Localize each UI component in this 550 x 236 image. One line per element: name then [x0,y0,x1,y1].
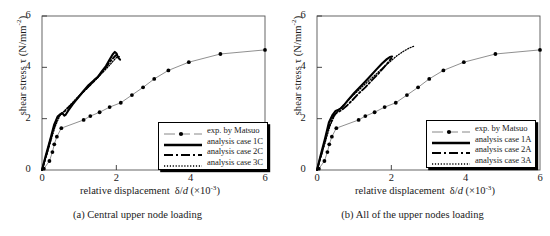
figure-container: shear stress τ (N/mm-2) relative displac… [0,0,550,236]
chart-panel-b: shear stress τ (N/mm-2) relative displac… [275,0,550,236]
x-tick-label: 2 [383,172,399,183]
legend-key-dotted [162,157,204,167]
x-tick-label: 6 [532,172,548,183]
x-tick-label: 0 [34,172,50,183]
y-tick-label: 2 [20,112,36,123]
chart-panel-a: shear stress τ (N/mm-2) relative displac… [0,0,275,236]
legend-row: analysis case 1A [430,134,531,145]
legend-row: exp. by Matsuo [430,123,531,134]
legend-row: analysis case 2C [162,146,263,157]
legend-label: analysis case 2C [204,146,263,156]
y-tick-label: 2 [295,112,311,123]
x-axis-label-b: relative displacement δ/d (×10-3) [305,185,545,196]
legend-a: exp. by Matsuoanalysis case 1Canalysis c… [158,122,268,170]
x-tick-label: 4 [183,172,199,183]
legend-row: analysis case 1C [162,136,263,147]
x-tick-label: 6 [257,172,273,183]
legend-label: analysis case 1A [472,134,531,144]
legend-key-line-marker [430,123,472,133]
legend-key-solid-thick [430,134,472,144]
x-tick-label: 0 [309,172,325,183]
y-tick-label: 4 [20,60,36,71]
legend-key-solid-thick [162,136,204,146]
legend-label: analysis case 3A [472,155,531,165]
panel-caption-a: (a) Central upper node loading [0,209,275,220]
legend-label: exp. by Matsuo [472,123,528,133]
y-tick-label: 6 [20,9,36,20]
panel-caption-b: (b) All of the upper nodes loading [275,209,550,220]
legend-key-line-marker [162,125,204,135]
legend-row: exp. by Matsuo [162,125,263,136]
legend-key-dashdot [162,146,204,156]
legend-key-dotted [430,155,472,165]
x-axis-label-a: relative displacement δ/d (×10-3) [30,185,270,196]
legend-row: analysis case 2A [430,144,531,155]
legend-row: analysis case 3A [430,155,531,166]
legend-label: analysis case 3C [204,157,263,167]
y-tick-label: 4 [295,60,311,71]
legend-label: analysis case 1C [204,136,263,146]
legend-label: analysis case 2A [472,144,531,154]
legend-key-dashdot [430,144,472,154]
y-tick-label: 6 [295,9,311,20]
legend-row: analysis case 3C [162,157,263,168]
legend-b: exp. by Matsuoanalysis case 1Aanalysis c… [426,120,536,168]
x-tick-label: 4 [458,172,474,183]
x-tick-label: 2 [108,172,124,183]
legend-label: exp. by Matsuo [204,125,260,135]
